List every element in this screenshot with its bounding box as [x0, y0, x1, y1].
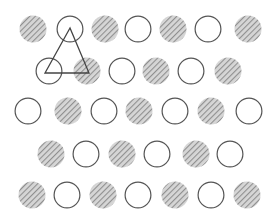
open-circle: [91, 98, 117, 124]
hatched-circle: [160, 16, 187, 43]
open-circle: [195, 16, 221, 42]
open-circle: [15, 98, 41, 124]
open-circle: [178, 58, 204, 84]
open-circle: [36, 58, 62, 84]
hatched-circle: [55, 98, 82, 125]
open-circle: [109, 58, 135, 84]
open-circle: [162, 98, 188, 124]
hatched-circle: [109, 141, 136, 168]
hatched-circle: [143, 58, 170, 85]
hatched-circle: [183, 141, 210, 168]
open-circle: [144, 141, 170, 167]
hatched-circle: [19, 182, 46, 209]
hatched-circle: [162, 182, 189, 209]
hatched-circle: [20, 16, 47, 43]
open-circle: [125, 182, 151, 208]
hatched-circle: [234, 182, 261, 209]
open-circle: [73, 141, 99, 167]
circle-lattice: [15, 16, 262, 209]
open-circle: [217, 141, 243, 167]
hatched-circle: [126, 98, 153, 125]
open-circle: [236, 98, 262, 124]
hatched-circle: [92, 16, 119, 43]
hatched-circle: [38, 141, 65, 168]
lattice-diagram: [0, 0, 275, 218]
hatched-circle: [90, 182, 117, 209]
open-circle: [54, 182, 80, 208]
open-circle: [198, 182, 224, 208]
hatched-circle: [74, 58, 101, 85]
hatched-circle: [235, 16, 262, 43]
hatched-circle: [198, 98, 225, 125]
hatched-circle: [215, 58, 242, 85]
open-circle: [125, 16, 151, 42]
